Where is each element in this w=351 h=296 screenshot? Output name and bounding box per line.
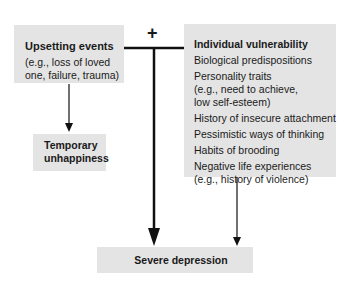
vulnerability-item: Pessimistic ways of thinking: [194, 128, 336, 141]
arrowhead-icon: [148, 228, 160, 246]
severe-depression-label: Severe depression: [134, 254, 227, 266]
vulnerability-item: History of insecure attachment: [194, 112, 336, 125]
vulnerability-item-detail: low self-esteem): [194, 96, 336, 109]
vulnerability-title: Individual vulnerability: [194, 38, 336, 51]
individual-vulnerability-box: Individual vulnerability Biological pred…: [184, 24, 336, 177]
temporary-line-2: unhappiness: [44, 152, 106, 165]
vulnerability-item: Negative life experiences: [194, 160, 336, 173]
plus-operator: +: [147, 24, 158, 42]
upsetting-events-desc-2: one, failure, trauma): [25, 69, 124, 82]
vulnerability-item: Personality traits: [194, 70, 336, 83]
arrowhead-icon: [65, 123, 73, 132]
temporary-unhappiness-box: Temporary unhappiness: [33, 134, 106, 171]
upsetting-events-title: Upsetting events: [25, 40, 124, 53]
vulnerability-item-detail: (e.g., need to achieve,: [194, 83, 336, 96]
temporary-line-1: Temporary: [44, 139, 106, 152]
severe-depression-box: Severe depression: [97, 247, 253, 273]
vulnerability-item: Biological predispositions: [194, 54, 336, 67]
upsetting-events-box: Upsetting events (e.g., loss of loved on…: [14, 25, 124, 83]
arrowhead-icon: [233, 237, 241, 246]
upsetting-events-desc-1: (e.g., loss of loved: [25, 56, 124, 69]
vulnerability-item: Habits of brooding: [194, 144, 336, 157]
vulnerability-item-detail: (e.g., history of violence): [194, 173, 336, 186]
